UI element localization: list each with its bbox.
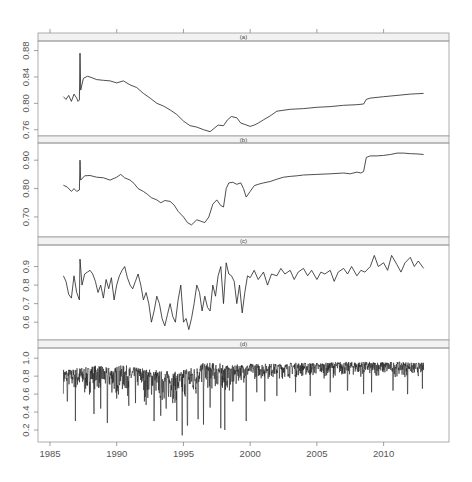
- x-tick-label: 1995: [173, 448, 194, 459]
- panel-a: (a)0.760.800.840.88: [20, 33, 449, 139]
- y-tick-label: 0.8: [20, 370, 31, 383]
- y-tick-label: 0.9: [20, 260, 31, 273]
- series-line: [63, 53, 423, 132]
- panel-strip-label: (d): [240, 341, 247, 347]
- x-tick-label: 1985: [39, 448, 60, 459]
- x-tick-label: 2010: [373, 448, 394, 459]
- y-tick-label: 0.6: [20, 387, 31, 400]
- y-tick-label: 0.6: [20, 316, 31, 329]
- panel-frame: [38, 245, 449, 340]
- y-tick-label: 1.0: [20, 352, 31, 365]
- y-tick-label: 0.90: [20, 151, 31, 170]
- x-tick-label: 2000: [240, 448, 261, 459]
- panel-strip-label: (c): [240, 238, 247, 244]
- y-tick-label: 0.70: [20, 208, 31, 227]
- chart-panels: (a)0.760.800.840.88(b)0.700.800.90(c)0.6…: [20, 33, 449, 442]
- y-tick-label: 0.88: [20, 41, 31, 60]
- x-tick-label: 2005: [306, 448, 327, 459]
- panel-strip-label: (b): [240, 137, 247, 143]
- series-line: [63, 153, 423, 225]
- panel-d: (d)0.20.40.60.81.0: [20, 340, 449, 442]
- y-tick-label: 0.80: [20, 179, 31, 198]
- y-tick-label: 0.84: [20, 68, 31, 87]
- x-tick-label: 1990: [106, 448, 127, 459]
- panel-strip-label: (a): [240, 34, 247, 40]
- y-tick-label: 0.2: [20, 423, 31, 436]
- panel-frame: [38, 41, 449, 136]
- panel-frame: [38, 348, 449, 442]
- y-tick-label: 0.7: [20, 297, 31, 310]
- y-tick-label: 0.4: [20, 405, 31, 418]
- panel-frame: [38, 143, 449, 237]
- chart-canvas: (a)0.760.800.840.88(b)0.700.800.90(c)0.6…: [0, 0, 472, 482]
- y-tick-label: 0.80: [20, 94, 31, 113]
- y-tick-label: 0.76: [20, 120, 31, 139]
- panel-c: (c)0.60.70.80.9: [20, 237, 449, 340]
- series-line: [63, 362, 423, 436]
- y-tick-label: 0.8: [20, 278, 31, 291]
- panel-b: (b)0.700.800.90: [20, 136, 449, 237]
- series-line: [63, 255, 423, 329]
